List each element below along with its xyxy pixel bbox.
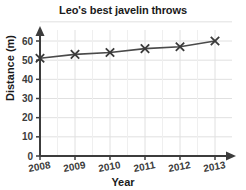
y-tick-label: 10 [22, 131, 34, 142]
x-tick-label: 2009 [62, 159, 86, 174]
line-chart-plot: 0102030405060 200820092010201120122013 [0, 0, 246, 190]
axes [36, 26, 237, 161]
y-tick-label: 0 [27, 151, 33, 162]
y-tick-label: 60 [22, 36, 34, 47]
y-tick-label: 40 [22, 74, 34, 85]
y-tick-label: 50 [22, 55, 34, 66]
y-tick-label: 30 [22, 93, 34, 104]
y-axis-tick-labels: 0102030405060 [22, 36, 34, 162]
x-tick-label: 2012 [167, 159, 191, 174]
x-tick-label: 2010 [97, 159, 121, 174]
y-axis-title: Distance (m) [4, 25, 16, 111]
x-tick-label: 2013 [202, 159, 226, 174]
x-axis-title: Year [0, 176, 246, 188]
y-tick-label: 20 [22, 112, 34, 123]
chart-screenshot: Leo's best javelin throws 0102030405060 … [0, 0, 246, 190]
x-axis-tick-labels: 200820092010201120122013 [27, 159, 226, 174]
grid-lines [40, 22, 232, 156]
x-tick-label: 2011 [133, 159, 157, 174]
